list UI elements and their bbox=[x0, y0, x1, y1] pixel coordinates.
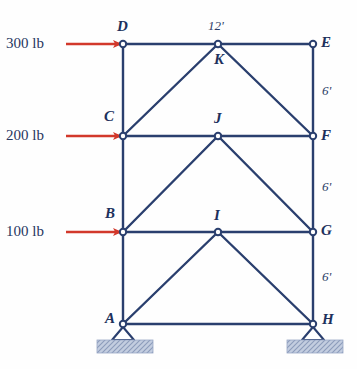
truss-member-BJ bbox=[123, 136, 218, 232]
truss-svg bbox=[0, 0, 357, 369]
joint-K bbox=[215, 41, 221, 47]
joint-label-G: G bbox=[321, 223, 332, 238]
joint-J bbox=[215, 133, 221, 139]
dim-right-top: 6' bbox=[322, 84, 331, 97]
joint-E bbox=[310, 41, 316, 47]
pin-support-triangle-H bbox=[302, 327, 324, 340]
joint-F bbox=[310, 133, 316, 139]
joint-G bbox=[310, 229, 316, 235]
pin-support-triangle-A bbox=[112, 327, 134, 340]
truss-member-JG bbox=[218, 136, 313, 232]
load-arrows bbox=[66, 44, 121, 232]
joint-B bbox=[120, 229, 126, 235]
joint-I bbox=[215, 229, 221, 235]
truss-member-KF bbox=[218, 44, 313, 136]
joint-label-E: E bbox=[321, 35, 331, 50]
dim-span: 12' bbox=[208, 19, 224, 32]
ground-pad-H bbox=[287, 340, 343, 353]
truss-member-AI bbox=[123, 232, 218, 324]
ground-pad-A bbox=[97, 340, 153, 353]
truss-member-CK bbox=[123, 44, 218, 136]
truss-member-IH bbox=[218, 232, 313, 324]
joint-D bbox=[120, 41, 126, 47]
joint-H bbox=[310, 321, 316, 327]
load-label-C: 200 lb bbox=[6, 128, 44, 143]
dim-right-bot: 6' bbox=[322, 270, 331, 283]
joint-label-C: C bbox=[104, 109, 114, 124]
joint-label-A: A bbox=[105, 311, 115, 326]
joint-label-D: D bbox=[117, 19, 128, 34]
joint-label-B: B bbox=[105, 206, 115, 221]
joint-C bbox=[120, 133, 126, 139]
truss-joints bbox=[120, 41, 316, 327]
load-label-D: 300 lb bbox=[6, 36, 44, 51]
joint-label-J: J bbox=[214, 111, 222, 126]
truss-members bbox=[123, 44, 313, 324]
joint-label-I: I bbox=[214, 208, 220, 223]
joint-A bbox=[120, 321, 126, 327]
load-label-B: 100 lb bbox=[6, 224, 44, 239]
joint-label-F: F bbox=[321, 128, 331, 143]
joint-label-K: K bbox=[214, 52, 224, 67]
dim-right-mid: 6' bbox=[322, 180, 331, 193]
truss-diagram: ABCDEFGHIJK 300 lb200 lb100 lb 12'6'6'6' bbox=[0, 0, 357, 369]
joint-label-H: H bbox=[322, 312, 334, 327]
truss-supports bbox=[97, 327, 343, 353]
